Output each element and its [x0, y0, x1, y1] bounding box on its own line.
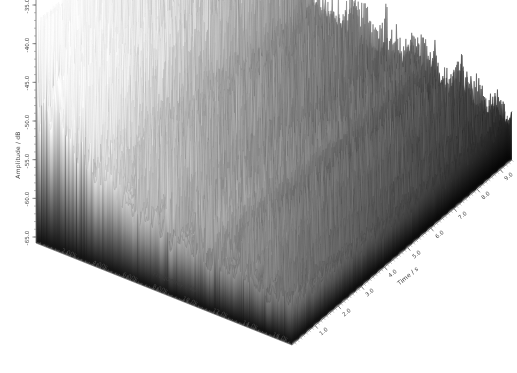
- amplitude-tick-label: -50.0: [24, 115, 30, 130]
- amplitude-tick-label: -35.0: [24, 0, 30, 13]
- amplitude-tick-label: -60.0: [24, 192, 30, 207]
- amplitude-tick-label: -55.0: [24, 153, 30, 168]
- surface-canvas-container: [0, 0, 517, 373]
- waterfall-surface-canvas: [0, 0, 517, 373]
- waterfall-plot-figure: Amplitude / dB -35.0-40.0-45.0-50.0-55.0…: [0, 0, 517, 373]
- amplitude-tick-label: -40.0: [24, 37, 30, 52]
- amplitude-tick-label: -45.0: [24, 76, 30, 91]
- amplitude-tick-label: -65.0: [24, 231, 30, 246]
- amplitude-axis-title: Amplitude / dB: [14, 131, 21, 178]
